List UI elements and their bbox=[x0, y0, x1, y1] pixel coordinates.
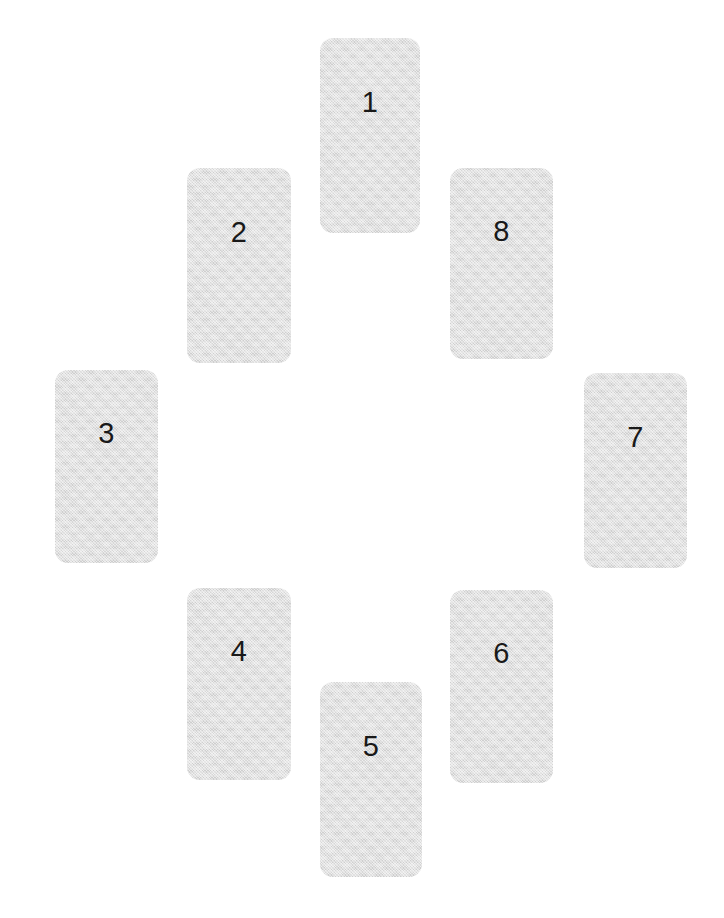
card-4[interactable]: 4 bbox=[187, 588, 291, 780]
card-8-label: 8 bbox=[450, 217, 553, 246]
card-4-label: 4 bbox=[187, 637, 291, 666]
card-5-label: 5 bbox=[320, 732, 422, 761]
card-1-label: 1 bbox=[320, 88, 420, 117]
card-3[interactable]: 3 bbox=[55, 370, 158, 563]
card-7-label: 7 bbox=[584, 423, 687, 452]
card-2[interactable]: 2 bbox=[187, 168, 291, 363]
card-ring-canvas: 1 2 3 4 5 6 7 8 bbox=[0, 0, 724, 918]
card-5[interactable]: 5 bbox=[320, 682, 422, 877]
card-7[interactable]: 7 bbox=[584, 373, 687, 568]
card-3-label: 3 bbox=[55, 419, 158, 448]
card-2-label: 2 bbox=[187, 218, 291, 247]
card-6-label: 6 bbox=[450, 639, 553, 668]
card-6[interactable]: 6 bbox=[450, 590, 553, 783]
card-8[interactable]: 8 bbox=[450, 168, 553, 359]
card-1[interactable]: 1 bbox=[320, 38, 420, 233]
